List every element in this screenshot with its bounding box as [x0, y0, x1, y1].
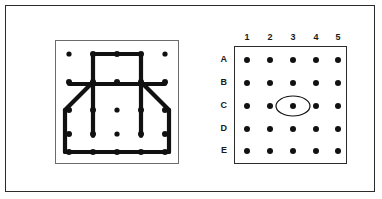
band-segment-right-diagonal-shoulder	[141, 82, 169, 110]
geoboard-peg-D2[interactable]	[90, 131, 96, 137]
geoboard-peg-group	[66, 51, 168, 155]
grid-dot-C2[interactable]	[267, 103, 273, 109]
grid-dot-D4[interactable]	[313, 126, 319, 132]
geoboard-peg-B4[interactable]	[138, 79, 144, 85]
geoboard-peg-A2[interactable]	[90, 51, 96, 57]
geoboard-peg-E5[interactable]	[162, 149, 168, 155]
geoboard-figure-svg	[55, 40, 179, 164]
grid-dot-A4[interactable]	[313, 57, 319, 63]
geoboard-peg-B3[interactable]	[114, 79, 120, 85]
geoboard-peg-C5[interactable]	[162, 107, 168, 113]
grid-dot-E3[interactable]	[290, 148, 296, 154]
outer-frame-border: 12345 ABCDE	[5, 5, 375, 192]
column-label-4: 4	[310, 32, 322, 43]
row-label-E: E	[215, 145, 227, 156]
geoboard-peg-A5[interactable]	[162, 51, 167, 56]
grid-dot-C4[interactable]	[313, 103, 319, 109]
geoboard-peg-D3[interactable]	[114, 131, 119, 136]
grid-dot-D3[interactable]	[290, 126, 296, 132]
grid-dot-E5[interactable]	[335, 148, 341, 154]
grid-dot-A1[interactable]	[244, 57, 250, 63]
row-label-D: D	[215, 123, 227, 134]
geoboard-peg-B1[interactable]	[66, 79, 72, 85]
grid-dot-E2[interactable]	[267, 148, 273, 154]
grid-dot-B5[interactable]	[335, 80, 341, 86]
screenshot-root: 12345 ABCDE	[0, 0, 382, 199]
grid-dot-B1[interactable]	[244, 80, 250, 86]
geoboard-peg-C1[interactable]	[66, 107, 72, 113]
geoboard-peg-C4[interactable]	[138, 107, 144, 113]
geoboard-peg-B5[interactable]	[162, 79, 168, 85]
left-geoboard-panel	[55, 40, 179, 164]
geoboard-peg-E4[interactable]	[138, 149, 144, 155]
row-label-C: C	[215, 100, 227, 111]
geoboard-peg-B2[interactable]	[90, 79, 96, 85]
rubber-band-figure	[65, 54, 169, 152]
geoboard-peg-D5[interactable]	[162, 131, 168, 137]
grid-dot-group	[244, 57, 341, 154]
right-coordinate-grid-panel: 12345 ABCDE	[231, 32, 349, 166]
band-segment-left-diagonal-shoulder	[65, 82, 93, 110]
column-label-1: 1	[241, 32, 253, 43]
geoboard-peg-C2[interactable]	[90, 107, 96, 113]
geoboard-peg-A3[interactable]	[114, 51, 120, 57]
geoboard-peg-A4[interactable]	[138, 51, 144, 57]
column-label-3: 3	[287, 32, 299, 43]
grid-dot-A3[interactable]	[290, 57, 296, 63]
row-label-B: B	[215, 77, 227, 88]
geoboard-peg-E3[interactable]	[114, 149, 120, 155]
grid-dot-B4[interactable]	[313, 80, 319, 86]
geoboard-peg-E2[interactable]	[90, 149, 96, 155]
grid-dot-C1[interactable]	[244, 103, 250, 109]
grid-dot-B2[interactable]	[267, 80, 273, 86]
geoboard-peg-D1[interactable]	[66, 131, 72, 137]
column-label-2: 2	[264, 32, 276, 43]
geoboard-peg-E1[interactable]	[66, 149, 72, 155]
grid-dot-D1[interactable]	[244, 126, 250, 132]
row-label-A: A	[215, 54, 227, 65]
geoboard-peg-A1[interactable]	[66, 51, 71, 56]
grid-dot-B3[interactable]	[290, 80, 296, 86]
column-label-5: 5	[332, 32, 344, 43]
grid-dot-D2[interactable]	[267, 126, 273, 132]
grid-dot-C3[interactable]	[290, 103, 296, 109]
geoboard-peg-D4[interactable]	[138, 131, 144, 137]
grid-dot-C5[interactable]	[335, 103, 341, 109]
grid-dot-D5[interactable]	[335, 126, 341, 132]
grid-dot-E4[interactable]	[313, 148, 319, 154]
coordinate-grid-svg	[234, 46, 347, 164]
geoboard-peg-C3[interactable]	[114, 107, 119, 112]
grid-dot-E1[interactable]	[244, 148, 250, 154]
grid-dot-A2[interactable]	[267, 57, 273, 63]
grid-dot-A5[interactable]	[335, 57, 341, 63]
